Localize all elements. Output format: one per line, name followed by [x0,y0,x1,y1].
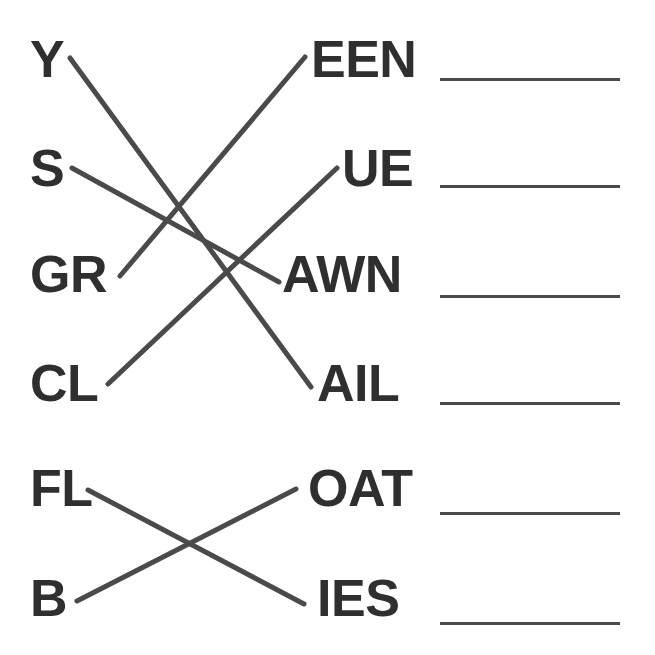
right-word-part-6[interactable]: IES [317,572,399,624]
left-word-part-6[interactable]: B [30,572,67,624]
answer-blank-3[interactable] [440,295,620,298]
connector-line-y-ail [70,58,311,387]
right-word-part-1[interactable]: EEN [311,33,416,85]
connector-lines-layer [0,0,655,655]
right-word-part-3[interactable]: AWN [282,248,402,300]
left-word-part-1[interactable]: Y [30,33,64,85]
answer-blank-6[interactable] [440,622,620,625]
answer-blank-4[interactable] [440,402,620,405]
answer-blank-5[interactable] [440,512,620,515]
connector-line-fl-ies [88,490,304,604]
answer-blank-2[interactable] [440,185,620,188]
connector-line-gr-een [120,57,305,276]
connector-line-b-oat [77,489,296,601]
left-word-part-3[interactable]: GR [30,248,107,300]
left-word-part-5[interactable]: FL [30,462,93,514]
matching-worksheet: Y S GR CL EEN UE AWN AIL FL B OAT IES [0,0,655,655]
right-word-part-2[interactable]: UE [342,142,413,194]
answer-blank-1[interactable] [440,78,620,81]
right-word-part-5[interactable]: OAT [308,462,412,514]
right-word-part-4[interactable]: AIL [317,357,399,409]
left-word-part-4[interactable]: CL [30,357,98,409]
left-word-part-2[interactable]: S [30,142,64,194]
